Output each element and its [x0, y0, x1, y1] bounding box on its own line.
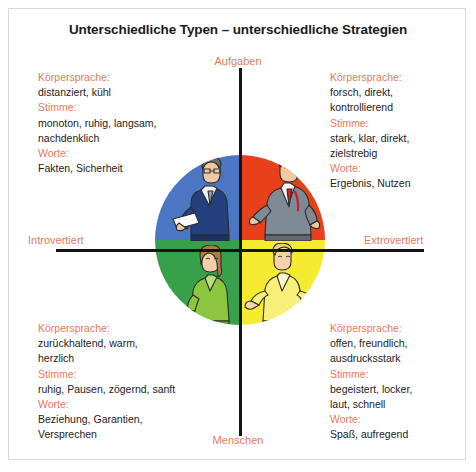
section-heading: Körpersprache:	[330, 321, 412, 336]
axis-label-top: Aufgaben	[0, 55, 476, 67]
section-line: Spaß, aufregend	[330, 427, 412, 442]
section-heading: Worte:	[330, 161, 411, 176]
quadrant-top-left	[155, 155, 240, 240]
section-heading: Worte:	[330, 412, 412, 427]
section-line: zurückhaltend, warm,	[38, 336, 175, 351]
quadrant-bottom-left	[155, 240, 240, 325]
axis-horizontal	[56, 249, 424, 252]
section-line: Versprechen	[38, 427, 175, 442]
section-line: offen, freundlich,	[330, 336, 412, 351]
section-line: ausdrucksstark	[330, 351, 412, 366]
section-line: Beziehung, Garantien,	[38, 412, 175, 427]
axis-vertical	[239, 68, 242, 436]
section-heading: Stimme:	[38, 100, 156, 115]
section-line: forsch, direkt,	[330, 85, 411, 100]
section-line: Fakten, Sicherheit	[38, 161, 156, 176]
diagram-page: Unterschiedliche Typen – unterschiedlich…	[0, 0, 476, 472]
section-line: Ergebnis, Nutzen	[330, 176, 411, 191]
text-block-top-left: Körpersprache:distanziert, kühlStimme:mo…	[38, 70, 156, 176]
section-line: begeistert, locker,	[330, 382, 412, 397]
quadrant-bottom-right	[240, 240, 325, 325]
axis-label-right: Extrovertiert	[364, 234, 423, 246]
section-heading: Stimme:	[38, 367, 175, 382]
section-line: laut, schnell	[330, 397, 412, 412]
section-line: nachdenklich	[38, 131, 156, 146]
section-line: zielstrebig	[330, 146, 411, 161]
text-block-bottom-left: Körpersprache:zurückhaltend, warm,herzli…	[38, 321, 175, 443]
section-heading: Körpersprache:	[38, 321, 175, 336]
section-line: herzlich	[38, 351, 175, 366]
axis-label-left: Introvertiert	[28, 234, 84, 246]
section-heading: Körpersprache:	[38, 70, 156, 85]
section-heading: Stimme:	[330, 116, 411, 131]
section-line: stark, klar, direkt,	[330, 131, 411, 146]
section-line: ruhig, Pausen, zögernd, sanft	[38, 382, 175, 397]
section-heading: Worte:	[38, 146, 156, 161]
section-line: monoton, ruhig, langsam,	[38, 116, 156, 131]
text-block-bottom-right: Körpersprache:offen, freundlich,ausdruck…	[330, 321, 412, 443]
section-heading: Körpersprache:	[330, 70, 411, 85]
quadrant-top-right	[240, 155, 325, 240]
section-line: distanziert, kühl	[38, 85, 156, 100]
page-title: Unterschiedliche Typen – unterschiedlich…	[0, 22, 476, 37]
section-heading: Stimme:	[330, 367, 412, 382]
section-heading: Worte:	[38, 397, 175, 412]
text-block-top-right: Körpersprache:forsch, direkt,kontrollier…	[330, 70, 411, 192]
section-line: kontrollierend	[330, 100, 411, 115]
